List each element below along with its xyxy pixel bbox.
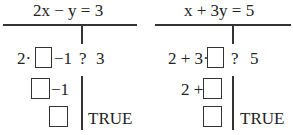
left-row1-question: ? — [79, 49, 87, 69]
right-row2-input-box[interactable] — [203, 78, 222, 99]
right-vertical-rule-bottom — [232, 76, 234, 130]
right-row3-input-box[interactable] — [203, 106, 222, 127]
right-vertical-rule-top — [232, 25, 234, 44]
right-row1-input-box[interactable] — [207, 47, 224, 68]
left-row1-suffix: −1 — [54, 49, 72, 69]
right-result: TRUE — [240, 109, 284, 129]
left-vertical-rule-top — [81, 25, 83, 44]
right-row1-prefix: 2 + 3· — [168, 49, 209, 69]
right-equation-title: x + 3y = 5 — [184, 1, 254, 21]
right-row1-rhs: 5 — [250, 49, 259, 69]
left-row1-rhs: 3 — [96, 49, 105, 69]
left-result: TRUE — [88, 109, 132, 129]
left-row1-input-box[interactable] — [35, 47, 52, 68]
left-row3-input-box[interactable] — [49, 106, 68, 127]
left-vertical-rule-bottom — [81, 76, 83, 130]
left-row2-suffix: −1 — [51, 80, 69, 100]
left-row1-prefix: 2· — [17, 49, 31, 69]
left-row2-input-box[interactable] — [31, 78, 50, 99]
right-row1-question: ? — [231, 49, 239, 69]
left-equation-title: 2x − y = 3 — [33, 1, 103, 21]
right-row2-prefix: 2 + — [181, 80, 203, 100]
right-horizontal-rule — [155, 24, 291, 26]
left-horizontal-rule — [3, 24, 137, 26]
